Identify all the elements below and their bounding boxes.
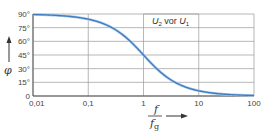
x-tick-label: 0,01 (29, 99, 45, 108)
y-axis-label: φ (4, 36, 12, 77)
x-label-numerator: f (153, 103, 160, 116)
x-tick-label: 1 (141, 99, 146, 108)
y-tick-label: 90° (18, 10, 30, 19)
x-axis-label: f fg (148, 103, 188, 131)
y-tick-label: 15° (18, 78, 30, 87)
y-axis-symbol: φ (4, 64, 12, 77)
y-tick-label: 45° (18, 51, 30, 60)
y-tick-label: 75° (18, 24, 30, 33)
curve-annotation: U2 vor U1 (152, 16, 190, 27)
y-tick-label: 30° (18, 65, 30, 74)
arrow-right-icon (181, 114, 188, 119)
y-tick-label: 60° (18, 37, 30, 46)
arrow-up-icon (7, 36, 12, 43)
x-tick-label: 10 (194, 99, 203, 108)
x-tick-label: 100 (247, 99, 261, 108)
x-label-denominator: fg (149, 117, 159, 131)
phase-response-chart: 015°30°45°60°75°90°0,010,1110100 U2 vor … (0, 0, 269, 133)
x-tick-label: 0,1 (83, 99, 95, 108)
